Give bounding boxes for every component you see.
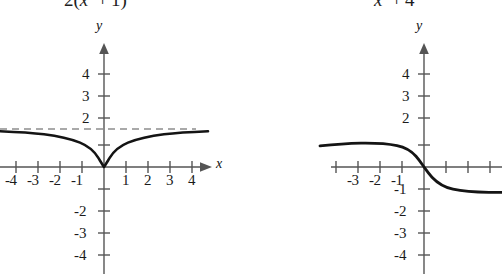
formula-left-variable: x — [80, 0, 88, 10]
y-axis-arrow — [419, 43, 429, 54]
formula-right: x2+4 — [374, 0, 415, 11]
y-tick-label--4: -4 — [74, 247, 87, 264]
y-tick-label--4: -4 — [394, 247, 407, 264]
x-tick-label--2: -2 — [369, 172, 381, 189]
x-tick-label--2: -2 — [49, 172, 61, 189]
formula-left-suffix: ) — [120, 0, 126, 10]
formula-left-constant: 1 — [111, 0, 121, 10]
formula-strip: 2(x2+1) x2+4 — [0, 0, 502, 16]
y-tick-label--2: -2 — [394, 203, 407, 220]
x-tick-label--3: -3 — [27, 172, 39, 189]
x-tick-label-1: 1 — [122, 172, 130, 189]
y-tick-label--3: -3 — [394, 225, 407, 242]
y-tick-label-4: 4 — [82, 66, 90, 83]
y-axis-label: y — [96, 18, 102, 34]
x-axis-label: x — [216, 156, 222, 172]
y-axis-label: y — [416, 18, 422, 34]
x-tick-label-2: 2 — [144, 172, 152, 189]
formula-left-prefix: 2( — [64, 0, 80, 10]
y-tick-label--1: -1 — [394, 181, 407, 198]
y-tick-label--3: -3 — [74, 225, 87, 242]
graph-left-svg — [0, 22, 251, 274]
formula-right-operator: + — [388, 0, 405, 10]
x-tick-label--4: -4 — [5, 172, 17, 189]
y-tick-label-4: 4 — [402, 66, 410, 83]
y-tick-label-2: 2 — [82, 110, 90, 127]
y-tick-label-2: 2 — [402, 110, 410, 127]
formula-left-operator: + — [94, 0, 111, 10]
formula-left: 2(x2+1) — [64, 0, 127, 11]
y-tick-label-3: 3 — [82, 88, 90, 105]
x-axis-arrow — [200, 162, 212, 172]
y-axis-arrow — [99, 43, 109, 54]
graph-left: y x -4 -3 -2 -1 1 2 3 4 4 3 2 -2 -3 -4 — [0, 22, 251, 274]
figure-container: 2(x2+1) x2+4 — [0, 0, 502, 274]
y-tick-label-3: 3 — [402, 88, 410, 105]
x-tick-label-4: 4 — [188, 172, 196, 189]
graph-right: y -3 -2 -1 4 3 2 -1 -2 -3 -4 — [251, 22, 502, 274]
graph-right-svg — [251, 22, 502, 274]
x-tick-label--3: -3 — [347, 172, 359, 189]
x-tick-label-3: 3 — [166, 172, 174, 189]
formula-right-constant: 4 — [405, 0, 415, 10]
y-tick-label--2: -2 — [74, 203, 87, 220]
x-tick-label--1: -1 — [71, 172, 83, 189]
